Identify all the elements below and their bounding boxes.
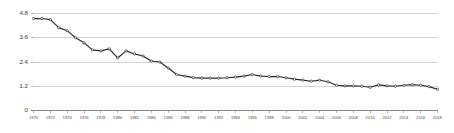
- data-point: [66, 30, 68, 32]
- data-point: [319, 79, 321, 81]
- x-axis-tick-label: 2016: [416, 115, 426, 120]
- data-point: [184, 75, 186, 77]
- data-point: [142, 55, 144, 57]
- line-chart: 01.22.43.64.8 19701972197419761978198019…: [0, 0, 454, 133]
- data-point: [293, 78, 295, 80]
- x-axis-tick-label: 2008: [349, 115, 359, 120]
- x-axis-tick-label: 2006: [332, 115, 342, 120]
- x-axis-tick-label: 1982: [130, 115, 140, 120]
- data-point: [100, 50, 102, 52]
- data-point: [327, 81, 329, 83]
- data-point: [91, 49, 93, 51]
- x-axis-tick-label: 1992: [214, 115, 224, 120]
- data-point: [260, 75, 262, 77]
- x-axis-tick-label: 1978: [96, 115, 106, 120]
- x-axis-tick-label: 1998: [265, 115, 275, 120]
- data-point: [209, 77, 211, 79]
- data-point: [218, 77, 220, 79]
- x-axis-tick-label: 2004: [315, 115, 325, 120]
- x-axis-tick-label: 1988: [180, 115, 190, 120]
- x-axis-tick-label: 2002: [298, 115, 308, 120]
- data-point: [41, 17, 43, 19]
- data-point: [310, 80, 312, 82]
- x-axis-tick-label: 2010: [366, 115, 376, 120]
- data-point: [192, 76, 194, 78]
- y-axis-tick-label: 4.8: [19, 9, 28, 16]
- x-axis-tick-label: 1984: [147, 115, 157, 120]
- data-point-markers: [32, 17, 438, 90]
- x-axis-labels: 1970197219741976197819801982198419861988…: [29, 115, 443, 120]
- data-point: [234, 76, 236, 78]
- x-axis-tick-label: 1996: [248, 115, 258, 120]
- x-axis-tick-label: 1970: [29, 115, 39, 120]
- data-point: [335, 84, 337, 86]
- y-axis-labels: 01.22.43.64.8: [19, 9, 28, 113]
- series-line: [34, 19, 438, 90]
- x-axis-tick-label: 2000: [281, 115, 291, 120]
- x-axis-tick-label: 1994: [231, 115, 241, 120]
- data-series: [34, 19, 438, 90]
- x-axis-tick-label: 2012: [382, 115, 392, 120]
- data-point: [226, 77, 228, 79]
- data-point: [369, 86, 371, 88]
- data-point: [411, 83, 413, 85]
- data-point: [377, 84, 379, 86]
- data-point: [58, 27, 60, 29]
- data-point: [133, 53, 135, 55]
- x-axis-tick-label: 1972: [46, 115, 56, 120]
- data-point: [276, 75, 278, 77]
- data-point: [32, 17, 34, 19]
- data-point: [49, 18, 51, 20]
- data-point: [420, 84, 422, 86]
- data-point: [167, 67, 169, 69]
- data-point: [201, 77, 203, 79]
- x-axis-tick-label: 2018: [433, 115, 443, 120]
- data-point: [285, 77, 287, 79]
- y-axis-tick-label: 3.6: [19, 33, 28, 40]
- x-axis-tick-label: 1976: [79, 115, 89, 120]
- data-point: [268, 75, 270, 77]
- data-point: [175, 73, 177, 75]
- x-axis-tick-label: 1974: [63, 115, 73, 120]
- x-axis-tick-label: 1980: [113, 115, 123, 120]
- data-point: [159, 61, 161, 63]
- data-point: [436, 88, 438, 90]
- data-point: [428, 86, 430, 88]
- data-point: [302, 79, 304, 81]
- data-point: [352, 85, 354, 87]
- y-axis-tick-label: 1.2: [19, 82, 28, 89]
- data-point: [394, 85, 396, 87]
- chart-canvas: 01.22.43.64.8 19701972197419761978198019…: [0, 0, 454, 133]
- data-point: [117, 57, 119, 59]
- data-point: [150, 60, 152, 62]
- data-point: [344, 85, 346, 87]
- data-point: [243, 75, 245, 77]
- y-axis-tick-label: 2.4: [19, 58, 28, 65]
- data-point: [386, 85, 388, 87]
- x-axis-tick-label: 2014: [399, 115, 409, 120]
- y-axis-tick-label: 0: [25, 106, 29, 113]
- data-point: [83, 42, 85, 44]
- data-point: [74, 37, 76, 39]
- data-point: [403, 84, 405, 86]
- x-axis-tick-label: 1986: [164, 115, 174, 120]
- data-point: [361, 85, 363, 87]
- x-axis-tick-label: 1990: [197, 115, 207, 120]
- y-axis-ticks: [31, 14, 34, 87]
- data-point: [108, 48, 110, 50]
- data-point: [125, 50, 127, 52]
- data-point: [251, 73, 253, 75]
